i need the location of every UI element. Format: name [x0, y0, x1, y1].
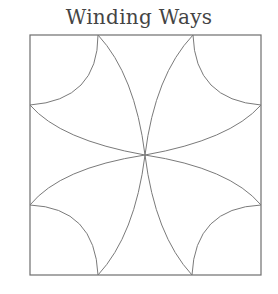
- corner-arc-bottom-left: [30, 205, 98, 275]
- petal-top-left-vertical: [98, 35, 145, 155]
- petal-top-right-horizontal: [145, 105, 261, 155]
- petal-bottom-right-vertical: [145, 155, 192, 275]
- corner-arc-bottom-right: [192, 205, 261, 275]
- corner-arc-top-left: [30, 35, 98, 105]
- corner-arc-top-right: [193, 35, 261, 105]
- petal-top-right-vertical: [145, 35, 193, 155]
- winding-ways-diagram: [0, 0, 278, 294]
- petal-bottom-left-vertical: [98, 155, 145, 275]
- petal-bottom-right-horizontal: [145, 155, 261, 205]
- petal-bottom-left-horizontal: [30, 155, 145, 205]
- petal-top-left-horizontal: [30, 105, 145, 155]
